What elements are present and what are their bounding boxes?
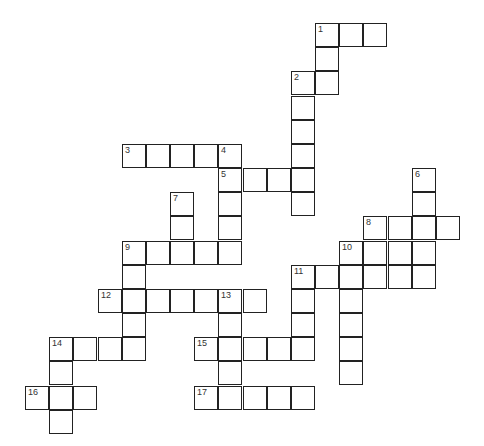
crossword-cell[interactable] [218,313,242,337]
crossword-cell[interactable]: 16 [25,386,49,410]
crossword-cell[interactable] [291,289,315,313]
clue-number: 17 [197,387,207,397]
crossword-cell[interactable] [315,47,339,71]
crossword-cell[interactable] [267,386,291,410]
clue-number: 6 [415,169,420,179]
crossword-cell[interactable] [291,337,315,361]
crossword-cell[interactable]: 10 [339,241,363,265]
clue-number: 11 [294,266,303,276]
clue-number: 13 [221,290,231,300]
crossword-cell[interactable] [412,216,436,240]
clue-number: 16 [28,387,38,397]
crossword-cell[interactable]: 17 [194,386,218,410]
clue-number: 9 [125,242,130,252]
crossword-cell[interactable] [267,337,291,361]
crossword-cell[interactable] [73,337,97,361]
crossword-cell[interactable] [218,337,242,361]
crossword-cell[interactable] [315,265,339,289]
crossword-cell[interactable] [339,337,363,361]
crossword-cell[interactable] [412,265,436,289]
crossword-cell[interactable] [243,289,267,313]
crossword-cell[interactable]: 13 [218,289,242,313]
crossword-cell[interactable]: 15 [194,337,218,361]
crossword-cell[interactable] [49,410,73,434]
crossword-cell[interactable] [243,337,267,361]
crossword-cell[interactable] [170,144,194,168]
crossword-cell[interactable]: 9 [122,241,146,265]
clue-number: 3 [125,145,130,155]
crossword-cell[interactable]: 2 [291,71,315,95]
crossword-cell[interactable] [388,265,412,289]
crossword-cell[interactable] [412,241,436,265]
clue-number: 8 [366,217,371,227]
clue-number: 1 [318,24,323,34]
crossword-cell[interactable]: 12 [98,289,122,313]
crossword-cell[interactable] [291,168,315,192]
crossword-cell[interactable] [291,192,315,216]
crossword-cell[interactable] [218,386,242,410]
crossword-cell[interactable] [291,144,315,168]
crossword-cell[interactable] [170,241,194,265]
crossword-cell[interactable] [146,144,170,168]
crossword-cell[interactable] [146,241,170,265]
crossword-cell[interactable] [339,313,363,337]
crossword-cell[interactable] [49,386,73,410]
crossword-cell[interactable] [243,168,267,192]
crossword-cell[interactable] [363,241,387,265]
clue-number: 2 [294,72,299,82]
crossword-cell[interactable] [73,386,97,410]
crossword-cell[interactable] [218,192,242,216]
clue-number: 4 [221,145,226,155]
crossword-cell[interactable] [170,289,194,313]
crossword-cell[interactable] [291,120,315,144]
crossword-cell[interactable] [194,241,218,265]
crossword-cell[interactable] [339,361,363,385]
crossword-cell[interactable]: 7 [170,192,194,216]
crossword-cell[interactable]: 1 [315,23,339,47]
crossword-cell[interactable] [339,265,363,289]
crossword-cell[interactable] [146,289,170,313]
crossword-cell[interactable]: 4 [218,144,242,168]
crossword-cell[interactable]: 6 [412,168,436,192]
crossword-cell[interactable] [243,386,267,410]
crossword-cell[interactable] [291,386,315,410]
crossword-cell[interactable] [122,265,146,289]
clue-number: 12 [101,290,111,300]
crossword-cell[interactable]: 3 [122,144,146,168]
crossword-cell[interactable] [218,361,242,385]
clue-number: 14 [52,338,62,348]
crossword-cell[interactable] [363,265,387,289]
crossword-cell[interactable] [218,216,242,240]
crossword-cell[interactable] [388,216,412,240]
crossword-cell[interactable] [291,96,315,120]
crossword-cell[interactable] [291,313,315,337]
clue-number: 15 [197,338,207,348]
crossword-cell[interactable]: 11 [291,265,315,289]
clue-number: 5 [221,169,226,179]
crossword-cell[interactable] [170,216,194,240]
clue-number: 7 [173,193,178,203]
crossword-cell[interactable] [218,241,242,265]
crossword-cell[interactable]: 14 [49,337,73,361]
crossword-cell[interactable] [194,144,218,168]
crossword-cell[interactable] [339,289,363,313]
crossword-cell[interactable] [122,337,146,361]
crossword-cell[interactable] [49,361,73,385]
crossword-cell[interactable] [98,337,122,361]
crossword-cell[interactable]: 8 [363,216,387,240]
crossword-cell[interactable] [122,289,146,313]
crossword-cell[interactable] [412,192,436,216]
crossword-cell[interactable] [267,168,291,192]
crossword-cell[interactable] [363,23,387,47]
crossword-cell[interactable]: 5 [218,168,242,192]
crossword-cell[interactable] [436,216,460,240]
crossword-cell[interactable] [122,313,146,337]
clue-number: 10 [342,242,352,252]
crossword-cell[interactable] [339,23,363,47]
crossword-cell[interactable] [315,71,339,95]
crossword-grid: 1234567891011121314151617 [0,0,484,446]
crossword-cell[interactable] [388,241,412,265]
crossword-cell[interactable] [194,289,218,313]
